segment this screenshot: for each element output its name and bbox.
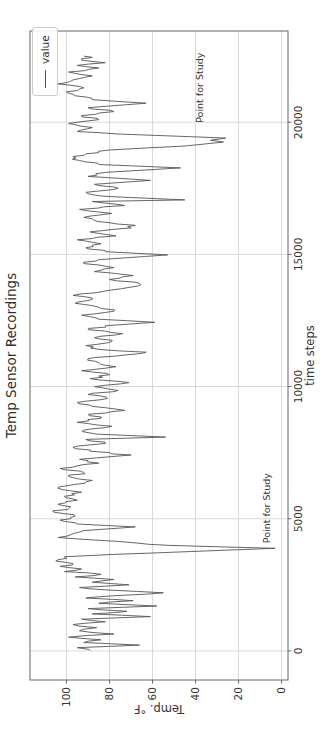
temperature-line bbox=[53, 56, 275, 651]
annotation-point-for-study: Point for Study bbox=[261, 473, 273, 543]
y-tick-label: 0 bbox=[275, 687, 287, 694]
y-tick-label: 60 bbox=[146, 687, 158, 700]
annotation-point-for-study: Point for Study bbox=[194, 53, 206, 123]
axes-frame bbox=[30, 31, 288, 680]
y-tick-label: 80 bbox=[103, 687, 115, 700]
chart-title: Temp Sensor Recordings bbox=[3, 31, 19, 680]
x-axis-label: time steps bbox=[303, 31, 317, 680]
y-tick-label: 100 bbox=[60, 687, 72, 707]
legend-label: value bbox=[39, 35, 51, 64]
figure-canvas: 05000100001500020000020406080100 Temp Se… bbox=[0, 0, 322, 737]
plot-svg: 05000100001500020000020406080100 bbox=[0, 0, 322, 737]
legend-line-sample bbox=[45, 70, 46, 88]
y-tick-label: 40 bbox=[189, 687, 201, 700]
y-tick-label: 20 bbox=[232, 687, 244, 700]
screenshot-viewport: 05000100001500020000020406080100 Temp Se… bbox=[0, 0, 322, 737]
legend: value bbox=[32, 27, 58, 96]
